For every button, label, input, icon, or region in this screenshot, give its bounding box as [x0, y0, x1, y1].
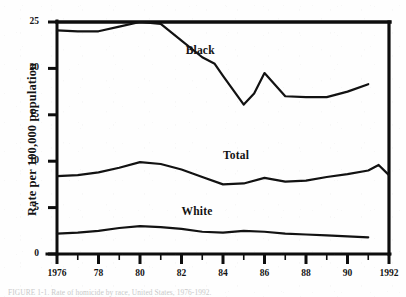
figure-caption: FIGURE 1-1. Rate of homicide by race, Un…: [8, 288, 404, 297]
x-tick-label: 88: [286, 268, 326, 278]
x-tick-label: 1992: [369, 268, 406, 278]
series-label-total: Total: [223, 149, 249, 161]
y-tick-label: 15: [17, 109, 39, 119]
x-tick-label: 86: [245, 268, 285, 278]
y-tick-label: 0: [17, 248, 39, 258]
y-tick-label: 5: [17, 202, 39, 212]
x-tick-label: 1976: [37, 268, 77, 278]
series-line-black: [57, 22, 368, 105]
y-tick-label: 20: [17, 62, 39, 72]
series-label-black: Black: [186, 44, 215, 56]
y-tick-label: 10: [17, 155, 39, 165]
series-label-white: White: [182, 205, 213, 217]
x-tick-label: 78: [79, 268, 119, 278]
figure-container: Rate per 100,000 population FIGURE 1-1. …: [0, 0, 406, 297]
series-line-total: [57, 162, 389, 184]
series-line-white: [57, 226, 368, 237]
x-tick-label: 84: [203, 268, 243, 278]
y-tick-label: 25: [17, 16, 39, 26]
x-tick-label: 90: [328, 268, 368, 278]
x-tick-label: 80: [120, 268, 160, 278]
x-tick-label: 82: [162, 268, 202, 278]
